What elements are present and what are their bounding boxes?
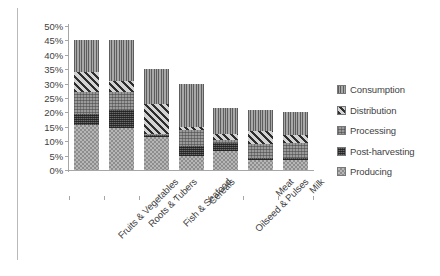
bar-segment [109, 92, 134, 109]
legend-swatch-icon [337, 85, 346, 94]
bar [179, 84, 204, 170]
y-tick-label: 0% [49, 165, 63, 176]
bar-segment [109, 110, 134, 129]
bar-segment [144, 137, 169, 170]
legend-item-label: Consumption [350, 84, 405, 95]
legend-item-label: Producing [350, 166, 392, 177]
y-tick-label: 15% [44, 121, 63, 132]
x-tick-mark [313, 196, 314, 200]
y-tick-mark [65, 170, 69, 171]
legend-item-label: Post-harvesting [350, 146, 415, 157]
bar [109, 40, 134, 170]
legend-swatch-icon [337, 106, 346, 115]
x-axis-line [68, 170, 314, 171]
bar-segment [248, 131, 273, 144]
x-tick-mark [104, 196, 105, 200]
plot-area: 0%5%10%15%20%25%30%35%40%45%50% [69, 26, 313, 170]
chart-legend: ConsumptionDistributionProcessingPost-ha… [337, 84, 415, 177]
legend-item-label: Processing [350, 125, 396, 136]
y-tick-mark [65, 26, 69, 27]
y-tick-label: 20% [44, 107, 63, 118]
bar-segment [109, 128, 134, 170]
y-tick-label: 50% [44, 21, 63, 32]
y-tick-label: 40% [44, 49, 63, 60]
image-left-border [17, 8, 18, 260]
bar-segment [213, 108, 238, 134]
bar-segment [74, 92, 99, 114]
legend-item[interactable]: Post-harvesting [337, 146, 415, 157]
legend-item[interactable]: Consumption [337, 84, 415, 95]
x-tick-mark [69, 196, 70, 200]
y-tick-mark [65, 40, 69, 41]
y-tick-label: 45% [44, 35, 63, 46]
bar-segment [144, 69, 169, 104]
x-axis-category-label: Milk [306, 176, 325, 195]
bar [74, 40, 99, 170]
bar-segment [109, 40, 134, 80]
y-tick-mark [65, 141, 69, 142]
legend-item[interactable]: Processing [337, 125, 415, 136]
stacked-bar-chart: 0%5%10%15%20%25%30%35%40%45%50% Fruits &… [0, 0, 440, 276]
bar [144, 69, 169, 170]
y-tick-label: 10% [44, 136, 63, 147]
legend-swatch-icon [337, 147, 346, 156]
bar-segment [213, 151, 238, 170]
legend-item-label: Distribution [350, 105, 396, 116]
bar-segment [74, 40, 99, 72]
y-tick-label: 30% [44, 78, 63, 89]
x-tick-mark [139, 196, 140, 200]
y-tick-mark [65, 112, 69, 113]
bar [213, 108, 238, 170]
y-tick-mark [65, 156, 69, 157]
bar-segment [248, 144, 273, 158]
bar-segment [74, 125, 99, 170]
bar-segment [179, 84, 204, 127]
y-tick-label: 35% [44, 64, 63, 75]
x-tick-mark [243, 196, 244, 200]
bar [248, 110, 273, 170]
bar-segment [283, 112, 308, 135]
bar-segment [213, 143, 238, 152]
bar-segment [283, 135, 308, 142]
bar [283, 112, 308, 170]
y-tick-label: 25% [44, 93, 63, 104]
bar-segment [144, 104, 169, 134]
y-tick-label: 5% [49, 150, 63, 161]
bar-segment [248, 160, 273, 170]
bar-segment [283, 160, 308, 170]
bar-segment [248, 110, 273, 132]
bar-segment [179, 156, 204, 170]
bar-segment [74, 114, 99, 126]
legend-item[interactable]: Producing [337, 166, 415, 177]
bar-segment [109, 81, 134, 93]
y-tick-mark [65, 55, 69, 56]
bar-segment [179, 130, 204, 146]
bar-segment [179, 146, 204, 156]
bar-segment [283, 143, 308, 159]
legend-item[interactable]: Distribution [337, 105, 415, 116]
bar-segment [74, 72, 99, 92]
y-tick-mark [65, 69, 69, 70]
y-tick-mark [65, 84, 69, 85]
legend-swatch-icon [337, 126, 346, 135]
y-tick-mark [65, 98, 69, 99]
legend-swatch-icon [337, 167, 346, 176]
y-tick-mark [65, 127, 69, 128]
